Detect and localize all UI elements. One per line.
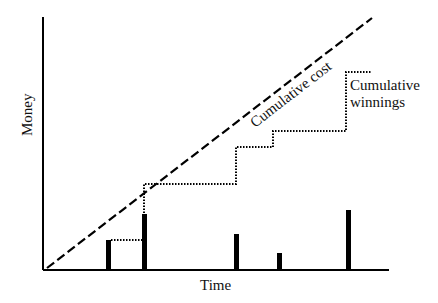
bar: [234, 234, 239, 270]
bar: [142, 214, 147, 270]
cumulative-cost-label: Cumulative cost: [247, 57, 335, 130]
y-axis-label: Money: [19, 93, 35, 136]
cumulative-cost-line: [47, 18, 372, 268]
bar: [346, 210, 351, 270]
winnings-bars: [106, 210, 351, 270]
chart: Cumulative cost Cumulative winnings Time…: [0, 0, 438, 303]
cumulative-winnings-line: [111, 72, 372, 240]
bar: [277, 253, 282, 270]
bar: [106, 240, 111, 270]
x-axis-label: Time: [200, 277, 231, 293]
cumulative-winnings-label-2: winnings: [350, 94, 405, 110]
chart-svg: Cumulative cost Cumulative winnings Time…: [0, 0, 438, 303]
cumulative-winnings-label-1: Cumulative: [350, 77, 420, 93]
